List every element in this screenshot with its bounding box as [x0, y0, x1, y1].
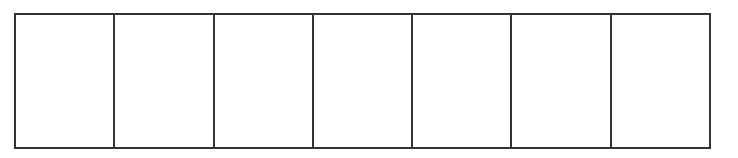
grid-cell-2 [115, 15, 214, 147]
grid-cell-4 [314, 15, 413, 147]
grid-cell-6 [512, 15, 611, 147]
box-grid [14, 13, 711, 149]
grid-cell-7 [612, 15, 709, 147]
grid-cell-3 [215, 15, 314, 147]
grid-cell-1 [16, 15, 115, 147]
canvas [0, 0, 738, 158]
grid-cell-5 [413, 15, 512, 147]
